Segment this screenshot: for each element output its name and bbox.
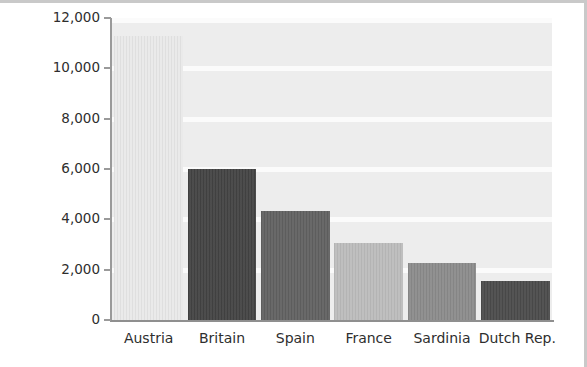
y-axis-tick-label: 2,000	[28, 263, 100, 277]
y-axis-tick-mark	[104, 118, 111, 120]
bar-spain[interactable]	[261, 211, 330, 320]
y-axis-tick-label: 12,000	[28, 11, 100, 25]
x-axis-tick-label: Spain	[259, 328, 332, 348]
x-axis-line	[110, 320, 554, 322]
bar-austria[interactable]	[114, 36, 183, 320]
bar-sardinia[interactable]	[408, 263, 477, 320]
x-axis-tick-label: Sardinia	[405, 328, 478, 348]
bar-chart-figure: CASUALTIES 02,0004,0006,0008,00010,00012…	[0, 0, 587, 367]
y-axis-tick-label: 4,000	[28, 212, 100, 226]
y-axis-tick-label: 0	[28, 313, 100, 327]
x-axis-tick-label: Austria	[112, 328, 185, 348]
x-axis-tick-label: Dutch Rep.	[479, 328, 552, 348]
y-axis-tick-mark	[104, 218, 111, 220]
y-axis-tick-label: 10,000	[28, 61, 100, 75]
y-axis-tick-mark	[104, 319, 111, 321]
y-axis-tick-label: 6,000	[28, 162, 100, 176]
y-axis-tick-mark	[104, 67, 111, 69]
gridline	[112, 18, 552, 23]
y-axis-tick-mark	[104, 269, 111, 271]
bar-dutch-rep[interactable]	[481, 281, 550, 320]
plot-area	[112, 18, 552, 320]
x-axis-tick-label: France	[332, 328, 405, 348]
y-axis-tick-labels: 02,0004,0006,0008,00010,00012,000	[28, 0, 100, 367]
bar-france[interactable]	[334, 243, 403, 320]
bar-britain[interactable]	[188, 169, 257, 320]
y-axis-tick-mark	[104, 17, 111, 19]
y-axis-tick-mark	[104, 168, 111, 170]
y-axis-tick-label: 8,000	[28, 112, 100, 126]
x-axis-tick-labels: AustriaBritainSpainFranceSardiniaDutch R…	[112, 328, 560, 352]
x-axis-tick-label: Britain	[185, 328, 258, 348]
